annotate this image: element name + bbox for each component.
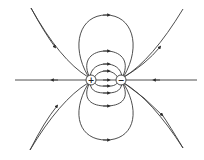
upper-loops	[79, 15, 133, 78]
lower-loop-small	[90, 83, 122, 93]
outer-field-lines	[30, 8, 183, 150]
negative-charge-symbol: −	[118, 76, 125, 85]
lower-right-segment	[161, 113, 183, 148]
positive-charge: +	[86, 75, 96, 85]
lower-loops	[79, 82, 133, 140]
lower-loop-inner	[94, 82, 118, 86]
upper-loop-mid	[87, 51, 126, 76]
negative-charge: −	[116, 75, 126, 85]
upper-right-arrow-icon	[124, 47, 160, 77]
dipole-diagram: + −	[0, 0, 204, 160]
lower-loop-mid	[87, 84, 126, 106]
field-lines-canvas: + −	[0, 0, 204, 160]
upper-loop-inner	[94, 71, 118, 78]
upper-left-outer-line	[31, 8, 88, 77]
positive-charge-symbol: +	[88, 76, 95, 85]
lower-right-arrow-icon	[124, 83, 162, 115]
